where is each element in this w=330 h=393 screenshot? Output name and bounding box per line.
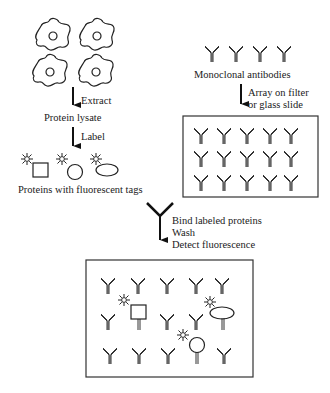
cells-group [33, 18, 114, 86]
array-label-2: or glass slide [248, 99, 303, 111]
labeled-proteins-group [21, 153, 118, 180]
array-antibodies [194, 128, 298, 191]
monoclonal-label: Monoclonal antibodies [194, 69, 291, 81]
array-label-1: Array on filter [248, 87, 309, 99]
wash-label: Wash [172, 227, 195, 239]
extract-label: Extract [81, 95, 111, 107]
bind-label: Bind labeled proteins [172, 215, 262, 227]
result-antibodies [101, 278, 234, 364]
label-step-label: Label [81, 131, 105, 143]
bind-arrow [147, 203, 173, 240]
antibody-array-diagram [0, 0, 330, 393]
monoclonal-antibodies-group [205, 46, 291, 62]
detect-label: Detect fluorescence [172, 239, 255, 251]
proteins-tags-label: Proteins with fluorescent tags [18, 184, 143, 196]
protein-lysate-label: Protein lysate [44, 112, 101, 124]
